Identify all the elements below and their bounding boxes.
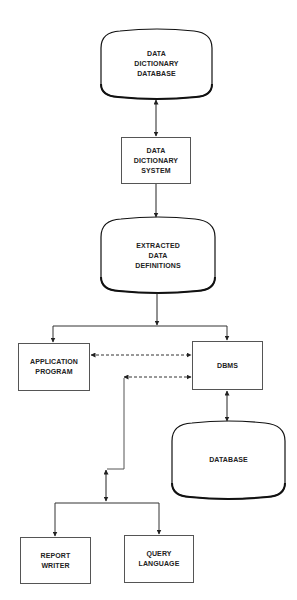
node-report-writer: REPORT WRITER (20, 537, 91, 584)
node-database: DATABASE (172, 423, 285, 497)
node-dbms: DBMS (192, 341, 263, 390)
data-dictionary-diagram: DATA DICTIONARY DATABASE DATA DICTIONARY… (0, 0, 297, 600)
edge-split-dbms (157, 326, 227, 340)
node-dd-database: DATA DICTIONARY DATABASE (101, 31, 212, 97)
node-application-program: APPLICATION PROGRAM (18, 343, 90, 391)
node-dd-system: DATA DICTIONARY SYSTEM (121, 137, 191, 184)
node-query-language: QUERY LANGUAGE (124, 535, 194, 583)
node-label: DATABASE (209, 455, 248, 465)
node-label: QUERY LANGUAGE (139, 549, 180, 569)
edge-junction-query-language (106, 503, 159, 534)
node-label: DATA DICTIONARY DATABASE (134, 49, 178, 79)
node-label: APPLICATION PROGRAM (30, 357, 78, 377)
node-label: DATA DICTIONARY SYSTEM (134, 146, 178, 176)
edge-split-application (53, 326, 157, 342)
node-label: EXTRACTED DATA DEFINITIONS (135, 241, 180, 271)
node-extracted-definitions: EXTRACTED DATA DEFINITIONS (101, 219, 215, 292)
node-label: REPORT WRITER (41, 551, 71, 571)
edge-junction-report-writer (55, 503, 106, 536)
node-label: DBMS (217, 361, 238, 371)
edge-tools-connector (107, 378, 124, 469)
